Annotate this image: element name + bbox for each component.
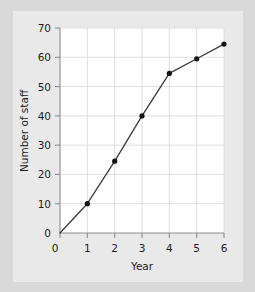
y-axis-title: Number of staff [18, 89, 30, 172]
x-tick-label-1: 1 [84, 242, 91, 254]
x-tick-label-6: 6 [221, 242, 228, 254]
y-axis-tick-labels: 70 60 50 40 30 20 10 0 [38, 22, 51, 239]
x-tick-label-2: 2 [111, 242, 118, 254]
x-axis-ticks [60, 233, 224, 238]
x-tick-label-0: 0 [52, 242, 59, 254]
plot-area-wrapper: 70 60 50 40 30 20 10 0 0 1 2 3 4 5 6 [0, 0, 255, 292]
y-tick-label-30: 30 [38, 139, 51, 151]
x-tick-label-4: 4 [166, 242, 173, 254]
line-chart-svg: 70 60 50 40 30 20 10 0 0 1 2 3 4 5 6 [0, 0, 255, 292]
y-tick-label-10: 10 [38, 198, 51, 210]
data-point-year-1 [85, 201, 90, 206]
data-point-year-6 [221, 42, 226, 47]
x-tick-label-3: 3 [139, 242, 146, 254]
data-point-year-4 [167, 71, 172, 76]
chart-figure: 70 60 50 40 30 20 10 0 0 1 2 3 4 5 6 [0, 0, 255, 292]
data-point-year-5 [194, 56, 199, 61]
y-tick-label-20: 20 [38, 168, 51, 180]
y-axis-ticks [55, 28, 60, 204]
y-tick-label-40: 40 [38, 110, 51, 122]
x-axis-title: Year [130, 260, 154, 272]
x-axis-tick-labels: 0 1 2 3 4 5 6 [52, 242, 228, 254]
data-point-year-2 [112, 159, 117, 164]
y-tick-label-70: 70 [38, 22, 51, 34]
y-tick-label-60: 60 [38, 51, 51, 63]
x-tick-label-5: 5 [193, 242, 200, 254]
data-point-year-3 [139, 113, 144, 118]
y-tick-label-50: 50 [38, 81, 51, 93]
y-tick-label-0: 0 [44, 227, 51, 239]
